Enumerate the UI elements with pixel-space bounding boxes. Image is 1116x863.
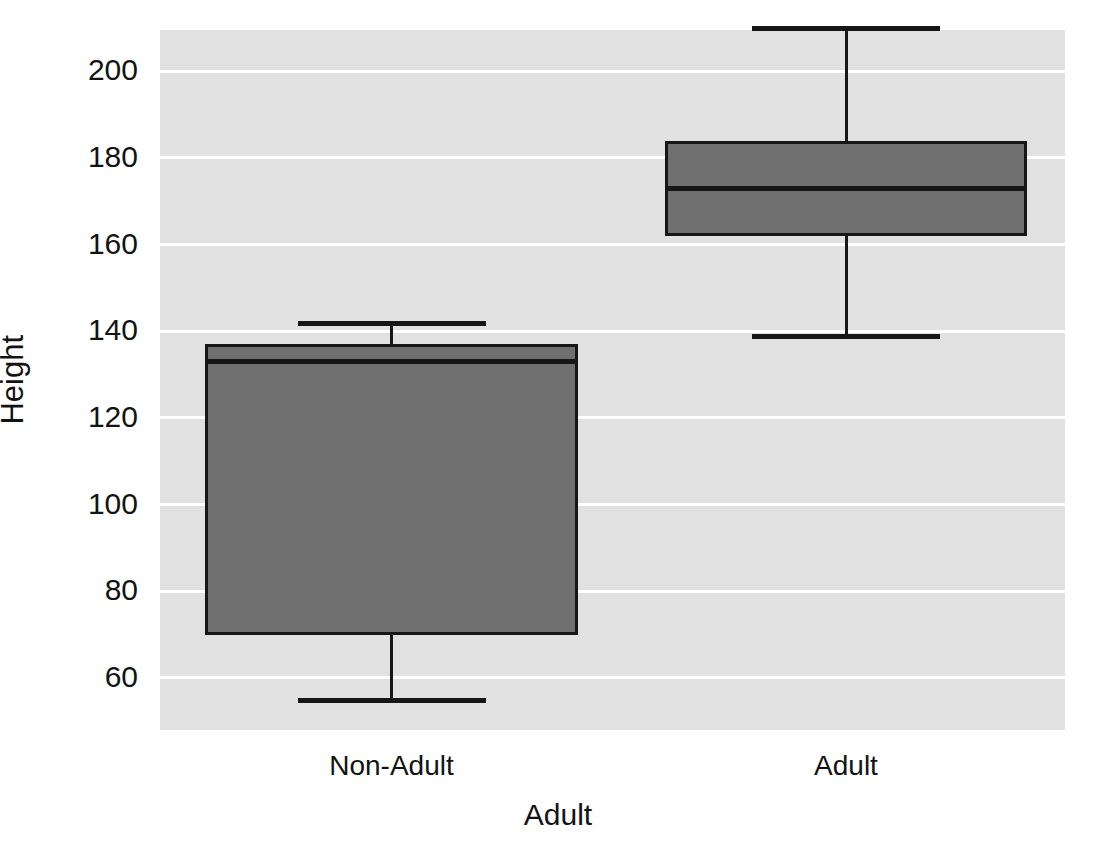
y-tick-label: 140	[0, 315, 138, 345]
upper-whisker-line	[845, 28, 848, 141]
y-tick-label: 60	[0, 662, 138, 692]
gridline	[160, 243, 1065, 246]
upper-whisker-cap	[298, 321, 486, 326]
gridline	[160, 676, 1065, 679]
x-tick-label: Adult	[646, 752, 1046, 780]
y-tick-label: 160	[0, 229, 138, 259]
median-line	[205, 359, 578, 364]
x-axis-title: Adult	[0, 800, 1116, 830]
gridline	[160, 70, 1065, 73]
y-tick-label: 120	[0, 402, 138, 432]
y-tick-label: 80	[0, 575, 138, 605]
lower-whisker-line	[390, 635, 393, 700]
gridline	[160, 330, 1065, 333]
x-tick-label: Non-Adult	[192, 752, 592, 780]
y-tick-label: 100	[0, 489, 138, 519]
lower-whisker-line	[845, 236, 848, 336]
plot-area	[160, 30, 1065, 730]
y-tick-label: 180	[0, 142, 138, 172]
upper-whisker-cap	[752, 26, 940, 31]
lower-whisker-cap	[752, 334, 940, 339]
upper-whisker-line	[390, 323, 393, 345]
box-iqr	[205, 344, 578, 634]
median-line	[665, 186, 1027, 191]
boxplot-figure: Height 2001801601401201008060 Non-AdultA…	[0, 0, 1116, 863]
y-tick-label: 200	[0, 55, 138, 85]
lower-whisker-cap	[298, 698, 486, 703]
